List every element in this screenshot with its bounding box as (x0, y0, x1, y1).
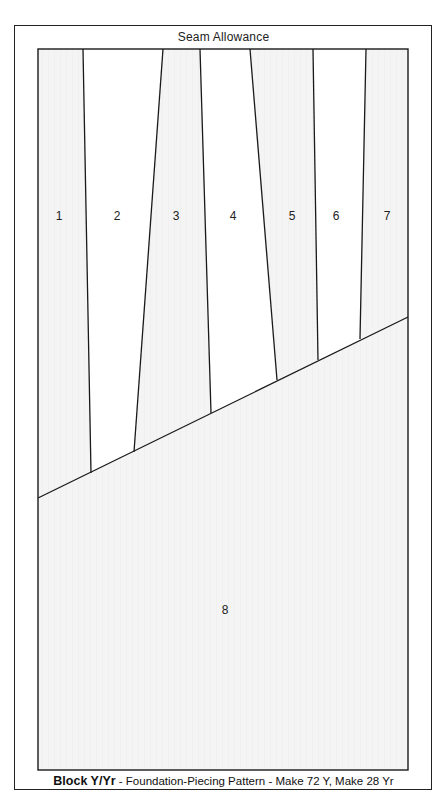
piece-number-1: 1 (56, 209, 63, 223)
piece-number-8: 8 (222, 603, 229, 617)
block-name: Block Y/Yr (53, 774, 115, 788)
piece-number-5: 5 (289, 209, 296, 223)
piece-number-7: 7 (384, 209, 391, 223)
piecing-diagram: 1 2 3 4 5 6 7 8 (0, 0, 447, 803)
pattern-caption: Block Y/Yr - Foundation-Piecing Pattern … (0, 774, 447, 788)
piece-number-3: 3 (173, 209, 180, 223)
piece-7 (360, 49, 408, 339)
piece-6 (313, 49, 366, 360)
pattern-description: - Foundation-Piecing Pattern - Make 72 Y… (116, 775, 394, 787)
piece-number-6: 6 (333, 209, 340, 223)
piece-number-4: 4 (230, 209, 237, 223)
piece-1 (38, 49, 91, 498)
piece-number-2: 2 (114, 209, 121, 223)
